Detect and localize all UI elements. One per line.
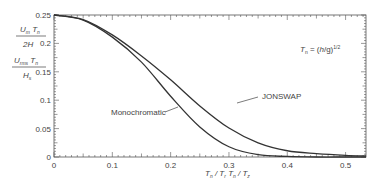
y-tick-label: 0.05 <box>35 125 51 134</box>
jonswap-label: JONSWAP <box>262 92 301 101</box>
chart-container: Um Tn 2H Urms Tn Hs 00.10.20.30.40.500.0… <box>0 0 382 188</box>
y-tick-label: 0.2 <box>40 39 52 48</box>
x-tick-label: 0 <box>52 161 57 170</box>
x-axis-label: Tn / Tr Tn / Tz <box>205 169 250 179</box>
y-label-bottom-denominator: Hs <box>23 71 32 81</box>
x-tick-label: 0.2 <box>165 161 177 170</box>
y-label-top-numerator: Um Tn <box>20 25 40 35</box>
y-tick-label: 0 <box>47 153 52 162</box>
y-tick-label: 0.1 <box>40 96 52 105</box>
tick-labels: 00.10.20.30.40.500.050.10.150.20.25 <box>35 11 351 170</box>
monochromatic-leader-line <box>165 107 178 112</box>
monochromatic-label: Monochromatic <box>111 108 166 117</box>
y-label-bottom-numerator: Urms Tn <box>14 56 38 66</box>
jonswap-leader-line <box>237 97 258 103</box>
x-tick-label: 0.1 <box>107 161 119 170</box>
curves <box>54 15 366 157</box>
y-tick-label: 0.25 <box>35 11 51 20</box>
line-chart: Um Tn 2H Urms Tn Hs 00.10.20.30.40.500.0… <box>0 0 382 188</box>
annotation-tn: Tn = (h/g)1/2 <box>300 44 340 55</box>
x-label: Tn / Tr Tn / Tz <box>205 169 250 179</box>
x-tick-label: 0.4 <box>282 161 294 170</box>
y-tick-label: 0.15 <box>35 68 51 77</box>
curve-monochromatic <box>54 15 366 157</box>
y-label-top-denominator: 2H <box>22 40 33 49</box>
x-tick-label: 0.5 <box>340 161 352 170</box>
